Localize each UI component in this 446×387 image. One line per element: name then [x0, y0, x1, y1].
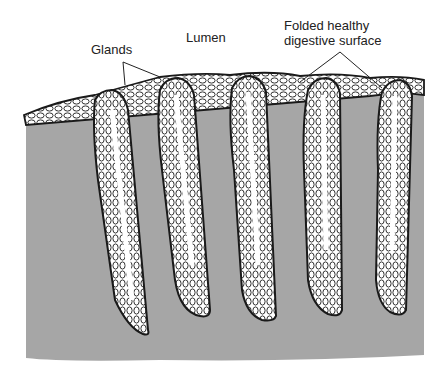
label-folded-surface-line2: digestive surface: [284, 33, 382, 48]
label-glands: Glands: [91, 42, 132, 57]
label-lumen: Lumen: [186, 30, 226, 45]
label-folded-surface-line1: Folded healthy: [284, 18, 382, 33]
tissue-block: [26, 92, 424, 361]
gland-cross-section-diagram: [0, 0, 446, 387]
label-folded-surface: Folded healthy digestive surface: [284, 18, 382, 48]
